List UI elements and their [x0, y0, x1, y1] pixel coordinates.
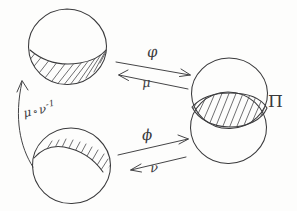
bottom-left-circle-outline [32, 128, 110, 204]
intersection-hatching [190, 91, 270, 131]
label-transition-exponent: -1 [44, 98, 55, 110]
arrow-nu-bottom [131, 157, 187, 172]
arrow-mu-top-shaft [119, 75, 188, 89]
label-phi-bottom: ϕ [142, 128, 153, 144]
label-nu-bottom: ν [150, 161, 158, 174]
label-phi-top: φ [146, 45, 158, 61]
diagram-canvas: φ μ ϕ ν μ∘ν-1 Π [0, 0, 297, 211]
label-mu-top: μ [142, 76, 151, 89]
top-left-chord-arc [30, 50, 106, 64]
arrow-nu-bottom-shaft [131, 157, 186, 170]
top-left-hatching [28, 46, 108, 86]
overlapping-circles-group [190, 58, 270, 164]
top-left-circle-outline [28, 9, 106, 85]
arrow-phi-bottom-head [178, 135, 189, 144]
bottom-left-circle-group [32, 128, 111, 204]
right-lower-circle-outline [190, 92, 266, 164]
arrow-phi-bottom-shaft [118, 139, 188, 155]
label-pi: Π [268, 93, 283, 110]
arrow-transition-curved [17, 81, 33, 168]
arrow-transition-head [17, 81, 28, 93]
arrow-transition-shaft [18, 82, 33, 167]
arrow-phi-top-shaft [116, 62, 190, 75]
arrow-phi-top [116, 62, 191, 77]
bottom-left-hatching [40, 139, 111, 182]
top-left-circle-group [28, 9, 108, 86]
arrow-phi-top-head [180, 69, 191, 77]
arrow-phi-bottom [118, 135, 189, 155]
